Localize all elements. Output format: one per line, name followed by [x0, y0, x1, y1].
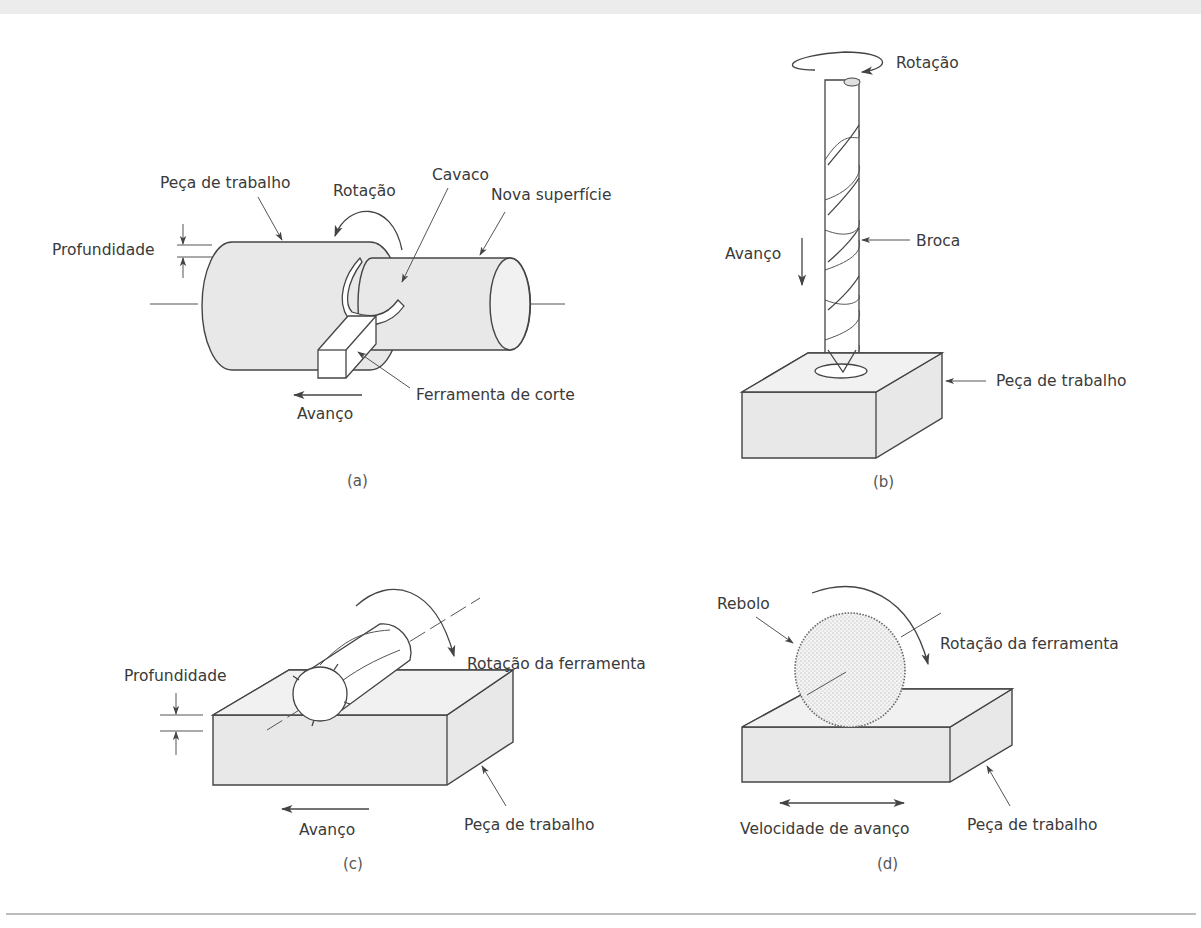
label-feed: Avanço [299, 821, 355, 839]
label-rotation: Rotação [333, 182, 396, 200]
panel-a-turning: Peça de trabalho Rotação Cavaco Nova sup… [52, 166, 611, 490]
label-depth: Profundidade [52, 241, 155, 259]
grinding-wheel [795, 613, 905, 727]
label-workpiece: Peça de trabalho [160, 174, 290, 192]
label-chip: Cavaco [432, 166, 489, 184]
label-wheel: Rebolo [717, 595, 770, 613]
label-workpiece: Peça de trabalho [996, 372, 1126, 390]
label-tool-rotation: Rotação da ferramenta [467, 655, 646, 673]
caption-a: (a) [347, 472, 368, 490]
panel-d-grinding: Rotação da ferramenta Rebolo Velocidade … [717, 587, 1119, 873]
wheel-axis-outer [901, 613, 941, 637]
label-drill: Broca [916, 232, 960, 250]
leader-workpiece [482, 766, 506, 806]
label-new-surface: Nova superfície [491, 186, 611, 204]
caption-c: (c) [343, 855, 363, 873]
label-depth: Profundidade [124, 667, 227, 685]
label-workpiece: Peça de trabalho [464, 816, 594, 834]
panel-c-milling: Rotação da ferramenta Profundidade Avanç… [124, 589, 646, 873]
machining-processes-figure: Peça de trabalho Rotação Cavaco Nova sup… [0, 0, 1201, 928]
leader-wheel [756, 617, 793, 643]
caption-d: (d) [877, 855, 898, 873]
label-feed: Avanço [725, 245, 781, 263]
milling-cutter-end [293, 667, 347, 721]
drill-bit [825, 80, 859, 380]
new-surface-end [490, 258, 530, 350]
leader-workpiece [987, 766, 1010, 806]
label-tool-rotation: Rotação da ferramenta [940, 635, 1119, 653]
leader-new-surface [480, 212, 505, 255]
rotation-arrow-icon [792, 52, 882, 72]
bottom-divider [6, 913, 1196, 915]
caption-b: (b) [873, 473, 894, 491]
label-workpiece: Peça de trabalho [967, 816, 1097, 834]
label-feed: Avanço [297, 405, 353, 423]
label-feed-speed: Velocidade de avanço [740, 820, 910, 838]
panel-b-drilling: Rotação Broca Avanço Peça de trabalho (b… [725, 52, 1126, 491]
label-cutting-tool: Ferramenta de corte [416, 386, 575, 404]
leader-workpiece [258, 197, 282, 240]
label-rotation: Rotação [896, 54, 959, 72]
drill-hole [815, 364, 867, 378]
